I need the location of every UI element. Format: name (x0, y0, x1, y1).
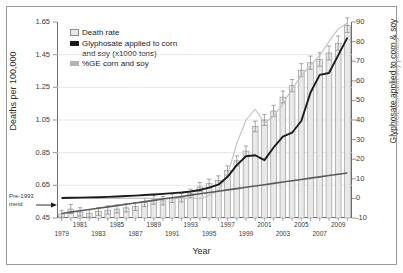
y-tick-label-right: 10 (356, 175, 382, 183)
x-tick-label: 1987 (124, 231, 146, 238)
x-tick-label: 2007 (309, 231, 331, 238)
death-rate-bar (326, 53, 332, 218)
x-tick-label: 2003 (272, 231, 294, 238)
death-rate-bar (280, 97, 286, 218)
y-tick-label-right: 30 (356, 136, 382, 144)
death-rate-bar (345, 25, 351, 218)
y-tick-label-right: 80 (356, 38, 382, 46)
y-tick-label-left: 1.65 (2, 18, 50, 26)
death-rate-bar (308, 63, 314, 218)
x-tick-label: 1993 (180, 222, 202, 229)
death-rate-bar (335, 43, 341, 218)
x-tick-label: 2009 (327, 222, 349, 229)
x-tick-label: 1989 (143, 222, 165, 229)
y-tick-label-left: 1.45 (2, 51, 50, 59)
y-tick-label-right: 40 (356, 116, 382, 124)
y-tick-label-left: 1.05 (2, 116, 50, 124)
y-tick-label-right: -10 (356, 214, 382, 222)
x-tick-label: 1991 (161, 231, 183, 238)
x-tick-label: 1981 (69, 222, 91, 229)
death-rate-bar (298, 70, 304, 218)
death-rate-bar (252, 127, 258, 218)
x-tick-label: 1999 (235, 231, 257, 238)
y-tick-label-left: 0.45 (2, 214, 50, 222)
y-tick-label-right: 20 (356, 155, 382, 163)
death-rate-bar (197, 187, 203, 218)
y-tick-label-left: 0.85 (2, 149, 50, 157)
x-tick-label: 1995 (198, 231, 220, 238)
x-tick-label: 1997 (217, 222, 239, 229)
y-tick-label-right: 60 (356, 77, 382, 85)
series-line (62, 38, 348, 198)
x-tick-label: 2001 (253, 222, 275, 229)
y-tick-label-left: 1.25 (2, 83, 50, 91)
death-rate-bar (243, 151, 249, 218)
y-tick-label-right: 50 (356, 96, 382, 104)
x-tick-label: 2005 (290, 222, 312, 229)
chart-figure: Deaths per 100,000 Glyphosate applied to… (0, 0, 403, 273)
x-tick-label: 1979 (51, 231, 73, 238)
x-tick-label: 1985 (106, 222, 128, 229)
death-rate-bar (271, 111, 277, 218)
y-tick-label-right: 0 (356, 194, 382, 202)
series-line (62, 173, 348, 214)
death-rate-bar (289, 86, 295, 218)
y-tick-label-left: 0.65 (2, 181, 50, 189)
death-rate-bar (262, 120, 268, 218)
x-tick-label: 1983 (87, 231, 109, 238)
death-rate-bar (317, 60, 323, 218)
y-tick-label-right: 90 (356, 18, 382, 26)
y-tick-label-right: 70 (356, 57, 382, 65)
annotation-arrow-icon (51, 202, 57, 207)
